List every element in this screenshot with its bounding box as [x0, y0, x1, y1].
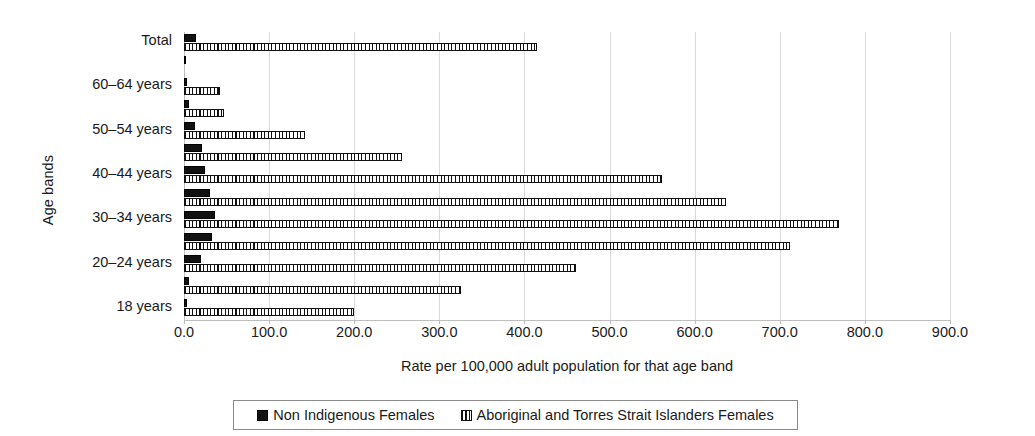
legend-item-aboriginal-torres-strait-females: Aboriginal and Torres Strait Islanders F…	[461, 407, 774, 423]
bar-aboriginal-torres-strait-females	[184, 153, 402, 161]
bar-row	[184, 98, 950, 120]
x-tick-label-900: 900.0	[932, 324, 968, 340]
bar-aboriginal-torres-strait-females	[184, 220, 839, 228]
bar-aboriginal-torres-strait-females	[184, 131, 305, 139]
plot-area	[184, 32, 950, 320]
y-tick-label: 40–44 years	[92, 162, 172, 184]
legend-swatch-hatched-icon	[461, 410, 472, 421]
bar-aboriginal-torres-strait-females	[184, 175, 662, 183]
bar-row	[184, 187, 950, 209]
x-tick-label-200: 200.0	[336, 324, 372, 340]
x-tick-label-300: 300.0	[421, 324, 457, 340]
legend-label-non-indigenous-females: Non Indigenous Females	[273, 407, 434, 423]
bar-non-indigenous-females	[184, 78, 187, 86]
bar-aboriginal-torres-strait-females	[184, 87, 220, 95]
y-tick-label: 20–24 years	[92, 251, 172, 273]
x-tick-label-0: 0.0	[174, 324, 194, 340]
x-tick-label-700: 700.0	[762, 324, 798, 340]
bar-aboriginal-torres-strait-females	[184, 286, 461, 294]
x-axis-line	[184, 320, 950, 321]
legend-swatch-solid-icon	[257, 410, 268, 421]
x-tick-label-400: 400.0	[506, 324, 542, 340]
bar-non-indigenous-females	[184, 56, 186, 64]
bar-row	[184, 231, 950, 253]
bar-non-indigenous-females	[184, 211, 215, 219]
x-tick-label-100: 100.0	[251, 324, 287, 340]
bar-aboriginal-torres-strait-females	[184, 242, 790, 250]
x-axis-tick-labels: 0.0100.0200.0300.0400.0500.0600.0700.080…	[184, 324, 950, 346]
legend-label-aboriginal-torres-strait-females: Aboriginal and Torres Strait Islanders F…	[477, 407, 774, 423]
bar-non-indigenous-females	[184, 299, 187, 307]
x-tick-label-600: 600.0	[677, 324, 713, 340]
bar-non-indigenous-females	[184, 34, 196, 42]
bar-aboriginal-torres-strait-females	[184, 43, 537, 51]
bar-row	[184, 209, 950, 231]
y-tick-label: 60–64 years	[92, 73, 172, 95]
x-axis-title: Rate per 100,000 adult population for th…	[184, 358, 950, 374]
bar-row	[184, 276, 950, 298]
bar-row	[184, 165, 950, 187]
bar-non-indigenous-females	[184, 144, 202, 152]
y-tick-label: Total	[141, 29, 172, 51]
bar-rows	[184, 32, 950, 320]
bar-non-indigenous-females	[184, 189, 210, 197]
bar-chart: Age bands Total60–64 years50–54 years40–…	[0, 0, 1035, 436]
bar-non-indigenous-females	[184, 166, 205, 174]
bar-aboriginal-torres-strait-females	[184, 308, 354, 316]
x-tick-label-500: 500.0	[591, 324, 627, 340]
y-tick-label: 18 years	[116, 295, 172, 317]
bar-non-indigenous-females	[184, 277, 189, 285]
bar-row	[184, 143, 950, 165]
bar-row	[184, 32, 950, 54]
bar-row	[184, 54, 950, 76]
y-tick-label: 30–34 years	[92, 206, 172, 228]
bar-non-indigenous-females	[184, 255, 201, 263]
y-axis-tick-labels: Total60–64 years50–54 years40–44 years30…	[0, 32, 180, 320]
bar-row	[184, 254, 950, 276]
y-tick-label: 50–54 years	[92, 118, 172, 140]
x-tick-label-800: 800.0	[847, 324, 883, 340]
bar-row	[184, 298, 950, 320]
bar-row	[184, 76, 950, 98]
bar-aboriginal-torres-strait-females	[184, 264, 576, 272]
bar-row	[184, 121, 950, 143]
bar-aboriginal-torres-strait-females	[184, 109, 224, 117]
gridline-900	[950, 32, 951, 320]
bar-non-indigenous-females	[184, 100, 189, 108]
bar-aboriginal-torres-strait-females	[184, 198, 726, 206]
chart-legend: Non Indigenous Females Aboriginal and To…	[233, 400, 798, 430]
legend-item-non-indigenous-females: Non Indigenous Females	[257, 407, 434, 423]
bar-non-indigenous-females	[184, 122, 195, 130]
bar-non-indigenous-females	[184, 233, 212, 241]
